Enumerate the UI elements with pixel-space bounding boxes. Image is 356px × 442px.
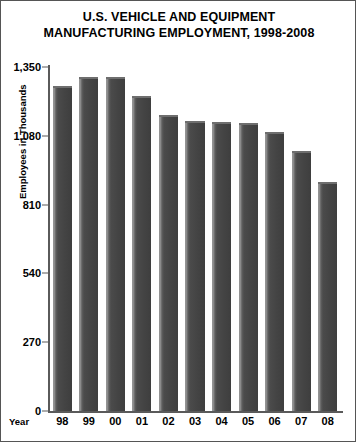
- bar: [265, 132, 284, 411]
- y-axis-tick-label: 540: [23, 267, 41, 279]
- chart-title-line-1: U.S. VEHICLE AND EQUIPMENT: [1, 9, 356, 25]
- bar: [318, 182, 337, 411]
- bar: [212, 122, 231, 411]
- chart-title: U.S. VEHICLE AND EQUIPMENT MANUFACTURING…: [1, 9, 356, 41]
- x-axis-tick-label: 02: [162, 415, 174, 427]
- y-axis-tick-mark: [42, 204, 49, 205]
- bar: [106, 77, 125, 411]
- x-axis-tick-label: 98: [56, 415, 68, 427]
- y-axis-tick-mark: [42, 67, 49, 68]
- x-axis-tick-label: 08: [322, 415, 334, 427]
- bar: [159, 115, 178, 411]
- y-axis-tick-label: 270: [23, 336, 41, 348]
- bar: [132, 96, 151, 411]
- y-axis-tick-mark: [42, 411, 49, 412]
- x-axis-tick-label: 00: [109, 415, 121, 427]
- x-axis-title: Year: [9, 416, 29, 427]
- chart-figure: U.S. VEHICLE AND EQUIPMENT MANUFACTURING…: [0, 0, 356, 442]
- y-axis-tick-mark: [42, 342, 49, 343]
- chart-title-line-2: MANUFACTURING EMPLOYMENT, 1998-2008: [1, 25, 356, 41]
- x-axis-tick-label: 04: [215, 415, 227, 427]
- x-axis-tick-label: 06: [269, 415, 281, 427]
- bar: [185, 121, 204, 411]
- y-axis-tick-mark: [42, 273, 49, 274]
- y-axis-tick-label: 810: [23, 199, 41, 211]
- x-axis-line: [48, 411, 343, 413]
- x-axis-tick-label: 05: [242, 415, 254, 427]
- y-axis-tick-mark: [42, 135, 49, 136]
- y-axis-tick-label: 1,350: [13, 61, 41, 73]
- x-axis-tick-label: 99: [83, 415, 95, 427]
- bar: [79, 77, 98, 411]
- bar: [292, 151, 311, 411]
- bar: [239, 123, 258, 411]
- y-axis-tick-label: 1,080: [13, 130, 41, 142]
- x-axis-tick-label: 01: [136, 415, 148, 427]
- plot-area: 02705408101,0801,350: [49, 67, 341, 411]
- x-axis-tick-label: 03: [189, 415, 201, 427]
- y-axis-tick-label: 0: [35, 405, 41, 417]
- x-axis-tick-label: 07: [295, 415, 307, 427]
- bar: [53, 86, 72, 411]
